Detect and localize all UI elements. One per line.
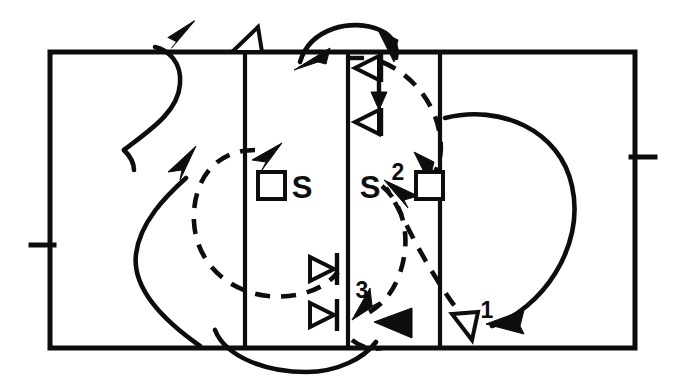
path-solid-left-upper-s bbox=[124, 47, 180, 150]
arrowhead-net-down-solid bbox=[371, 92, 387, 110]
arrowhead-top-left-solid bbox=[167, 21, 197, 49]
blocker-marker-bottom-lower-triangle bbox=[310, 303, 334, 327]
arrowhead-left-setter-solid bbox=[252, 143, 282, 170]
path-solid-bottom-dip bbox=[215, 330, 376, 372]
arrowheads-group bbox=[167, 21, 524, 340]
court-outline bbox=[50, 52, 635, 348]
blocker-marker-top-lower bbox=[355, 108, 381, 136]
path-solid-right-big-arc bbox=[445, 114, 575, 326]
path-solid-left-link bbox=[124, 150, 134, 170]
route-label-one: 1 bbox=[481, 297, 494, 323]
arrow-net-down bbox=[371, 78, 387, 110]
volleyball-play-diagram: S S 2 3 1 bbox=[0, 0, 678, 386]
labels-group: S S 2 3 1 bbox=[292, 159, 494, 323]
player-square-right bbox=[416, 172, 443, 199]
dashed-paths-group bbox=[194, 62, 470, 349]
route-label-three: 3 bbox=[356, 277, 369, 303]
court-group bbox=[31, 52, 655, 348]
setter-label-left: S bbox=[292, 170, 313, 205]
setter-label-right: S bbox=[360, 170, 381, 205]
play-diagram-container: S S 2 3 1 bbox=[0, 0, 678, 386]
player-square-left bbox=[258, 172, 285, 199]
blocker-marker-top-lower-triangle bbox=[355, 110, 379, 134]
arrowhead-bottom-mid-solid bbox=[374, 308, 412, 338]
blocker-marker-top-upper bbox=[350, 54, 381, 82]
arrowhead-bottom-right-hollow bbox=[452, 312, 478, 340]
blocker-marker-bottom-lower bbox=[310, 299, 337, 331]
player-squares-group bbox=[258, 172, 443, 199]
path-solid-left-lower-s bbox=[136, 178, 200, 346]
path-dashed-route-two bbox=[386, 188, 470, 326]
route-label-two: 2 bbox=[392, 159, 405, 185]
arrowhead-top-hollow bbox=[232, 27, 262, 52]
arrowhead-mid-left-solid bbox=[168, 146, 196, 180]
